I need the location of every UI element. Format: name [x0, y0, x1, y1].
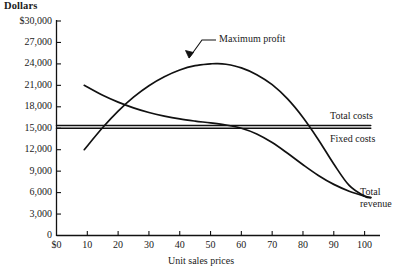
- x-tick-label: 40: [165, 239, 195, 250]
- y-tick-label: 9,000: [0, 165, 52, 176]
- y-tick-label: 6,000: [0, 186, 52, 197]
- y-tick-label: 12,000: [0, 143, 52, 154]
- chart-container: Dollars Unit sales prices $30,00027,0002…: [0, 0, 403, 276]
- series-label-total-revenue: Total revenue: [360, 186, 392, 209]
- series-line-profit-curve: [84, 64, 371, 198]
- x-tick-label: 30: [134, 239, 164, 250]
- annotation-leader-line: [186, 40, 217, 58]
- annotation-maximum-profit: Maximum profit: [219, 33, 285, 44]
- series-label-total-costs: Total costs: [330, 110, 373, 122]
- x-tick-label: 100: [350, 239, 380, 250]
- series-label-total-revenue-line2: revenue: [360, 198, 392, 209]
- x-tick-marks: [87, 231, 364, 236]
- y-tick-label: 27,000: [0, 36, 52, 47]
- x-tick-label: 60: [226, 239, 256, 250]
- y-tick-label: 21,000: [0, 79, 52, 90]
- x-tick-label: 10: [72, 239, 102, 250]
- x-tick-label: 80: [288, 239, 318, 250]
- x-tick-label: $0: [42, 239, 72, 250]
- y-tick-label: 15,000: [0, 122, 52, 133]
- y-tick-marks: [57, 21, 62, 214]
- x-tick-label: 20: [103, 239, 133, 250]
- y-tick-label: 3,000: [0, 208, 52, 219]
- x-tick-label: 90: [319, 239, 349, 250]
- y-tick-label: 18,000: [0, 100, 52, 111]
- maximum-profit-leader: [189, 40, 216, 58]
- series-label-fixed-costs: Fixed costs: [330, 133, 375, 145]
- series-lines: [57, 64, 371, 198]
- y-tick-label: $30,000: [0, 15, 52, 26]
- x-tick-label: 50: [196, 239, 226, 250]
- y-tick-label: 24,000: [0, 57, 52, 68]
- x-tick-label: 70: [257, 239, 287, 250]
- maximum-profit-arrowhead: [186, 51, 194, 59]
- series-label-total-revenue-line1: Total: [360, 186, 380, 197]
